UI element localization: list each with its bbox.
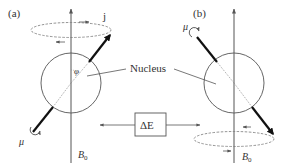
magnetic-moment-vector-a [33, 107, 53, 132]
nucleus-label: Nucleus [130, 62, 166, 74]
spin-vector-a [89, 35, 110, 62]
nucleus-leader-right [174, 69, 216, 84]
magnetic-moment-vector-b [197, 37, 217, 62]
energy-difference-label: ΔE [140, 119, 154, 131]
spin-axis-dotted-b [234, 83, 252, 107]
panel-a-label: (a) [8, 7, 21, 20]
moment-axis-dotted-a [53, 83, 71, 107]
angle-phi-label: φ [74, 66, 79, 76]
mu-rotation-icon-b [189, 28, 199, 37]
center-annotations: Nucleus ΔE [87, 62, 216, 136]
nucleus-leader-left [87, 69, 126, 76]
moment-axis-dotted-b [217, 62, 234, 83]
b0-label-a: B0 [78, 149, 88, 162]
mu-label-a: μ [18, 136, 24, 147]
nuclear-spin-precession-diagram: (a) j φ μ B0 Nucleus ΔE [0, 0, 290, 166]
b0-label-b: B0 [242, 151, 252, 164]
mu-label-b: μ [182, 21, 188, 32]
panel-a: (a) j φ μ B0 [8, 7, 111, 163]
angular-momentum-label: j [102, 10, 106, 22]
panel-b: (b) μ B0 [182, 7, 274, 164]
panel-b-label: (b) [193, 7, 206, 20]
spin-vector-b [252, 107, 273, 134]
